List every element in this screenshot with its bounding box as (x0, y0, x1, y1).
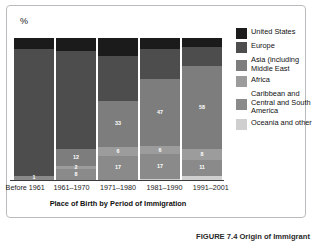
legend-swatch-icon (236, 42, 247, 53)
bar-segment-value: 6 (117, 149, 120, 154)
figure-root: % 11228336174761758811 Before 19611961–1… (0, 0, 320, 245)
bar-column: 33617 (98, 38, 138, 180)
bar-segment (182, 47, 222, 67)
x-axis-line (10, 180, 224, 181)
x-axis-tick-labels: Before 19611961–19701971–19801981–199019… (2, 183, 234, 192)
legend-label: Caribbean and Central and South America (251, 90, 316, 116)
bar-segment (56, 38, 96, 51)
x-axis-title: Place of Birth by Period of Immigration (2, 199, 234, 208)
bar-segment: 6 (140, 146, 180, 155)
bar-segment-value: 17 (157, 164, 163, 169)
bar-segment (98, 38, 138, 56)
bar-segment (98, 56, 138, 100)
legend-label: Asia (including Middle East (251, 56, 316, 73)
bar-segment: 17 (140, 154, 180, 178)
bar-segment: 8 (56, 169, 96, 180)
bar-segment: 47 (140, 79, 180, 146)
legend-item: Oceania and other (236, 119, 316, 130)
y-axis-label: % (20, 16, 28, 26)
legend-item: Caribbean and Central and South America (236, 90, 316, 116)
bar-segment (14, 38, 54, 49)
bar-segment (182, 38, 222, 47)
bar-segment-value: 6 (159, 148, 162, 153)
legend-label: Africa (251, 76, 270, 85)
stacked-bars: 11228336174761758811 (14, 38, 222, 180)
legend-swatch-icon (236, 76, 247, 87)
x-axis-tick: 1991–2001 (188, 183, 234, 192)
legend-label: Europe (251, 42, 275, 51)
chart-legend: United StatesEuropeAsia (including Middl… (236, 28, 316, 133)
bar-segment: 8 (182, 149, 222, 160)
legend-swatch-icon (236, 60, 247, 71)
legend-item: United States (236, 28, 316, 39)
bar-segment-value: 33 (115, 121, 121, 126)
bar-segment-value: 17 (115, 165, 121, 170)
bar-segment (14, 49, 54, 175)
bar-segment (140, 49, 180, 79)
legend-item: Europe (236, 42, 316, 53)
legend-item: Africa (236, 76, 316, 87)
bar-segment (56, 51, 96, 149)
legend-label: United States (251, 28, 295, 37)
bar-column: 58811 (182, 38, 222, 180)
legend-item: Asia (including Middle East (236, 56, 316, 73)
bar-segment-value: 11 (199, 165, 205, 170)
bar-segment: 6 (98, 147, 138, 156)
legend-swatch-icon (236, 99, 247, 110)
bar-segment-value: 58 (199, 105, 205, 110)
bar-segment-value: 8 (201, 152, 204, 157)
x-axis-tick: 1981–1990 (141, 183, 187, 192)
legend-label: Oceania and other (251, 119, 312, 128)
legend-swatch-icon (236, 119, 247, 130)
bar-segment: 33 (98, 101, 138, 148)
bar-segment-value: 12 (73, 155, 79, 160)
x-axis-tick: 1961–1970 (48, 183, 94, 192)
bar-column: 47617 (140, 38, 180, 180)
bar-segment: 11 (182, 160, 222, 176)
figure-caption: FIGURE 7.4 Origin of Immigrant (196, 232, 320, 241)
bar-segment: 17 (98, 156, 138, 180)
bar-segment (140, 38, 180, 49)
bar-segment: 58 (182, 66, 222, 148)
bar-segment-value: 8 (75, 172, 78, 177)
bar-column: 1228 (56, 38, 96, 180)
bar-segment-value: 47 (157, 110, 163, 115)
plot-area: % 11228336174761758811 Before 19611961–1… (14, 10, 222, 208)
legend-swatch-icon (236, 28, 247, 39)
bar-column: 1 (14, 38, 54, 180)
x-axis-tick: Before 1961 (2, 183, 48, 192)
x-axis-tick: 1971–1980 (95, 183, 141, 192)
